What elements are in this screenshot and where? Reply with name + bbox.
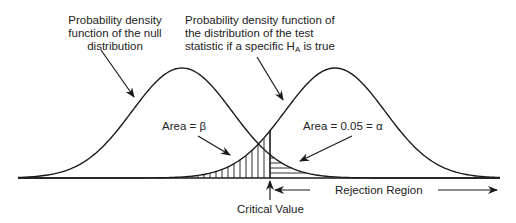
alt-label-arrow [257, 57, 283, 100]
null-distribution-curve [18, 68, 500, 178]
alt-pdf-label: Probability density function of the dist… [185, 14, 335, 56]
alpha-label-arrow [300, 136, 352, 161]
alternative-distribution-curve [18, 68, 500, 178]
alt-pdf-label-line3: statistic if a specific HA is true [185, 40, 335, 56]
rejection-region-label: Rejection Region [335, 184, 423, 197]
critical-value-label: Critical Value [237, 203, 304, 216]
beta-area-hatching [174, 138, 264, 178]
alt-pdf-label-line3-suffix: is true [300, 40, 335, 52]
alt-pdf-label-line2: the distribution of the test [185, 27, 335, 40]
null-pdf-label-line2: function of the null [56, 27, 174, 40]
hypothesis-test-diagram: Probability density function of the null… [0, 0, 516, 223]
beta-label-arrow [198, 136, 230, 155]
area-beta-label: Area = β [162, 120, 206, 133]
null-pdf-label: Probability density function of the null… [56, 14, 174, 53]
alt-pdf-label-line1: Probability density function of [185, 14, 335, 27]
null-label-arrow [101, 50, 134, 97]
null-pdf-label-line1: Probability density [56, 14, 174, 27]
area-alpha-label: Area = 0.05 = α [303, 120, 383, 133]
alt-pdf-label-line3-text: statistic if a specific H [185, 40, 295, 52]
null-pdf-label-line3: distribution [56, 40, 174, 53]
